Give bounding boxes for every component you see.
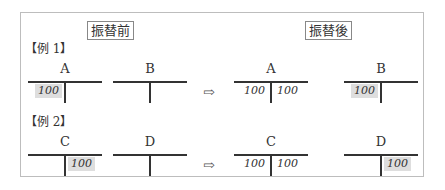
t-account-vertical-line [149, 154, 151, 176]
t-account-d-after: D 100 [344, 135, 418, 169]
t-account-vertical-line [270, 81, 272, 103]
t-account-a-before: A 100 [28, 62, 102, 96]
t-account-vertical-line [64, 81, 66, 103]
account-name: A [28, 62, 102, 76]
account-name: A [234, 62, 308, 76]
t-account-vertical-line [149, 81, 151, 103]
header-after: 振替後 [305, 21, 352, 40]
header-before: 振替前 [87, 21, 134, 40]
example-2-label: 【例 2】 [25, 115, 72, 129]
t-account-vertical-line [64, 154, 66, 176]
t-account-b-before: B [113, 62, 187, 96]
debit-amount: 100 [351, 84, 378, 98]
credit-amount: 100 [68, 157, 95, 171]
account-name: C [234, 135, 308, 149]
debit-amount: 100 [241, 157, 268, 171]
t-account-vertical-line [380, 81, 382, 103]
example-1-label: 【例 1】 [25, 42, 72, 56]
credit-amount: 100 [384, 157, 411, 171]
t-account-vertical-line [380, 154, 382, 176]
t-account-a-after: A 100 100 [234, 62, 308, 96]
t-account-d-before: D [113, 135, 187, 169]
account-name: D [344, 135, 418, 149]
t-account-c-after: C 100 100 [234, 135, 308, 169]
account-name: B [113, 62, 187, 76]
account-name: D [113, 135, 187, 149]
right-arrow-icon: ⇨ [203, 158, 215, 172]
debit-amount: 100 [241, 84, 268, 98]
debit-amount: 100 [35, 84, 62, 98]
t-account-b-after: B 100 [344, 62, 418, 96]
right-arrow-icon: ⇨ [203, 85, 215, 99]
t-account-c-before: C 100 [28, 135, 102, 169]
t-account-vertical-line [270, 154, 272, 176]
account-name: B [344, 62, 418, 76]
account-name: C [28, 135, 102, 149]
credit-amount: 100 [274, 157, 301, 171]
credit-amount: 100 [274, 84, 301, 98]
